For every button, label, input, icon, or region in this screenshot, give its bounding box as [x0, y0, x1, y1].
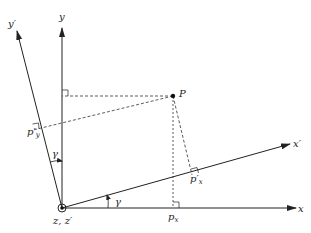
- px-label: px: [168, 211, 178, 224]
- coordinate-rotation-diagram: y y′ x x′ P z, z′ γ γ px p′x p′y: [0, 0, 311, 233]
- y-prime-axis-label: y′: [7, 18, 17, 29]
- projection-to-y-prime: [33, 96, 173, 130]
- angle-label-bottom: γ: [115, 196, 121, 207]
- x-prime-axis: [62, 144, 290, 208]
- px-prime-label: p′x: [190, 173, 203, 186]
- projection-to-x-prime: [173, 96, 192, 175]
- point-p-label: P: [178, 88, 186, 99]
- origin-dot: [60, 206, 64, 210]
- y-axis-label: y: [58, 11, 65, 22]
- x-prime-axis-label: x′: [293, 138, 302, 149]
- angle-label-top: γ: [52, 148, 58, 159]
- right-angle-x: [173, 202, 179, 208]
- point-p: [171, 94, 175, 98]
- x-axis-label: x: [298, 203, 304, 214]
- angle-arc-bottom: [107, 195, 108, 208]
- y-prime-axis: [17, 31, 62, 208]
- right-angle-y: [62, 90, 68, 96]
- origin-label: z, z′: [52, 215, 73, 226]
- angle-arc-top: [50, 161, 62, 162]
